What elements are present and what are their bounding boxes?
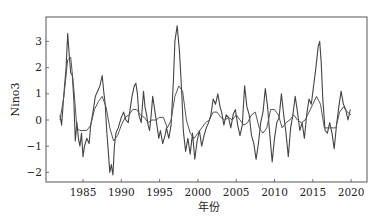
x-tick-label: 2010: [261, 186, 288, 198]
x-tick-label: 2000: [185, 186, 212, 198]
nino3-line-chart: 19851990199520002005201020152020 3210−1−…: [0, 0, 383, 221]
plot-frame: [46, 17, 367, 182]
x-tick-label: 2005: [223, 186, 250, 198]
y-tick-label: 1: [35, 87, 42, 99]
x-tick-label: 2020: [338, 186, 365, 198]
x-tick-label: 1990: [108, 186, 135, 198]
x-tick-label: 1995: [146, 186, 173, 198]
y-tick-label: 3: [35, 35, 42, 47]
x-tick-label: 2015: [299, 186, 326, 198]
y-tick-label: 0: [35, 114, 42, 126]
y-tick-label: −1: [27, 140, 42, 152]
y-tick-label: 2: [35, 61, 42, 73]
y-axis-label: Nino3: [9, 83, 22, 117]
x-tick-label: 1985: [70, 186, 97, 198]
series-line-smoothed: [60, 57, 351, 141]
x-axis-label: 年份: [198, 200, 220, 214]
series-layer: [60, 26, 351, 175]
y-tick-label: −2: [27, 166, 42, 178]
